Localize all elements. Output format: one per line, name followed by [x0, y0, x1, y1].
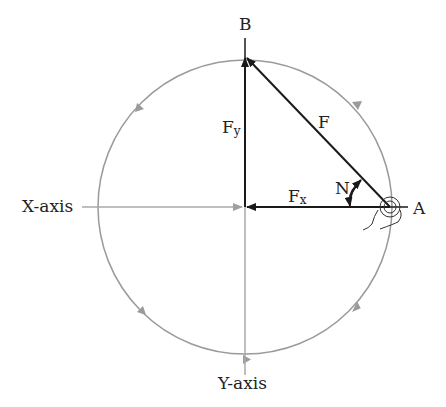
force-label: F: [318, 114, 330, 131]
arrow-icon: [243, 355, 251, 364]
hand-grip-icon: [363, 197, 401, 230]
force-x-main: F: [288, 186, 300, 206]
point-a-label: A: [413, 200, 425, 217]
point-b-label: B: [239, 16, 252, 33]
force-y-subscript: y: [234, 124, 241, 138]
y-axis-label: Y-axis: [218, 375, 267, 392]
force-x-label: Fx: [288, 188, 307, 205]
x-axis-label: X-axis: [22, 198, 73, 215]
force-y-main: F: [222, 117, 234, 137]
force-y-label: Fy: [222, 119, 241, 136]
circle-direction-arrows: [135, 101, 362, 364]
angle-label: N: [335, 180, 350, 197]
force-diagram: B A X-axis Y-axis F N Fy Fx: [0, 0, 446, 407]
force-x-subscript: x: [300, 193, 307, 207]
